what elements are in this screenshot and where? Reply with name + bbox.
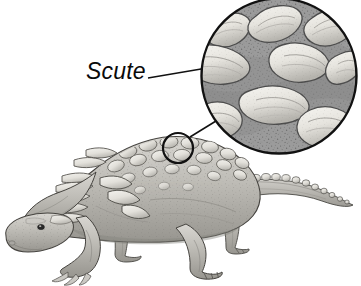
scute-label: Scute [86, 58, 146, 84]
figure-container: Scute [0, 0, 361, 286]
dinosaur-scute-illustration [0, 0, 361, 286]
eye [38, 224, 45, 229]
